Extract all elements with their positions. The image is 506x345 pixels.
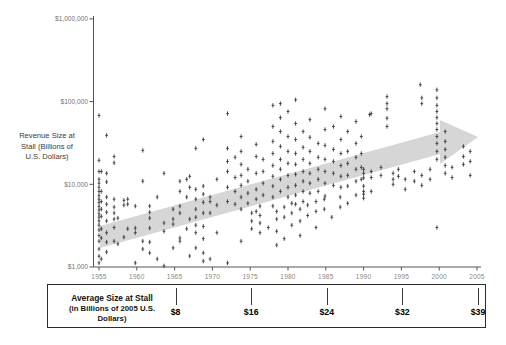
data-point <box>179 189 182 193</box>
data-point <box>362 196 365 200</box>
data-point <box>309 161 312 165</box>
data-point <box>397 167 400 171</box>
data-point <box>272 151 275 155</box>
data-point <box>259 221 262 225</box>
data-point <box>134 261 137 265</box>
data-point <box>226 169 229 173</box>
data-point <box>287 109 290 113</box>
data-point <box>105 210 108 214</box>
data-point <box>302 145 305 149</box>
data-point <box>105 219 108 223</box>
data-point <box>306 213 309 217</box>
data-point <box>240 173 243 177</box>
data-point <box>404 187 407 191</box>
data-point <box>275 209 278 213</box>
data-point <box>163 171 166 175</box>
data-point <box>290 201 293 205</box>
data-point <box>420 101 423 105</box>
data-point <box>179 239 182 243</box>
data-point <box>419 83 422 87</box>
data-point <box>194 187 197 191</box>
data-point <box>188 254 191 258</box>
data-point <box>234 175 237 179</box>
data-point <box>279 157 282 161</box>
data-point <box>148 240 151 244</box>
data-point <box>370 189 373 193</box>
data-point <box>202 259 205 263</box>
data-point <box>317 155 320 159</box>
data-point <box>185 227 188 231</box>
data-point <box>340 137 343 141</box>
data-point <box>185 177 188 181</box>
data-point <box>279 129 282 133</box>
data-point <box>315 209 318 213</box>
data-point <box>386 107 389 111</box>
data-point <box>370 111 373 115</box>
data-point <box>370 175 373 179</box>
data-point <box>275 217 278 221</box>
data-point <box>247 179 250 183</box>
data-point <box>216 231 219 235</box>
data-point <box>267 225 270 229</box>
average-size-box: Average Size at Stall (in Billions of 20… <box>47 284 486 328</box>
x-tick-label: 1995 <box>394 273 410 280</box>
average-size-value: $39 <box>462 307 494 317</box>
data-point <box>302 157 305 161</box>
data-point <box>392 177 395 181</box>
data-point <box>272 174 275 178</box>
data-point <box>202 137 205 141</box>
data-point <box>105 250 108 254</box>
data-point <box>226 111 229 115</box>
data-point <box>339 195 342 199</box>
x-tick-label: 1970 <box>205 273 221 280</box>
data-point <box>462 162 465 166</box>
data-point <box>294 162 297 166</box>
data-point <box>202 184 205 188</box>
data-point <box>194 246 197 250</box>
y-tick-label: $1,000,000 <box>55 15 88 22</box>
data-point <box>141 247 144 251</box>
data-point <box>436 96 439 100</box>
data-point <box>105 171 108 175</box>
data-point <box>332 183 335 187</box>
data-point <box>279 167 282 171</box>
data-point <box>141 148 144 152</box>
data-point <box>290 223 293 227</box>
data-point <box>179 179 182 183</box>
data-point <box>340 185 343 189</box>
average-size-tick-mark <box>251 288 252 305</box>
data-point <box>275 229 278 233</box>
data-point <box>451 175 454 179</box>
data-point <box>113 217 116 221</box>
data-point <box>413 169 416 173</box>
data-point <box>299 207 302 211</box>
data-point <box>283 205 286 209</box>
data-point <box>194 231 197 235</box>
data-point <box>148 204 151 208</box>
average-size-tick-mark <box>176 288 177 305</box>
data-point <box>240 134 243 138</box>
data-point <box>436 121 439 125</box>
data-point <box>105 195 108 199</box>
data-point <box>287 149 290 153</box>
data-point <box>202 251 205 255</box>
data-point <box>429 177 432 181</box>
data-point <box>451 165 454 169</box>
data-point <box>323 207 326 211</box>
data-point <box>194 146 197 150</box>
data-point <box>255 142 258 146</box>
data-point <box>299 219 302 223</box>
data-point <box>255 209 258 213</box>
average-size-value: $24 <box>311 307 343 317</box>
x-tick-label: 1955 <box>91 273 107 280</box>
data-point <box>98 219 101 223</box>
data-point <box>444 171 447 175</box>
data-point <box>141 179 144 183</box>
data-point <box>113 161 116 165</box>
data-point <box>306 203 309 207</box>
data-point <box>226 159 229 163</box>
data-point <box>362 184 365 188</box>
data-point <box>172 246 175 250</box>
data-point <box>309 135 312 139</box>
data-point <box>259 213 262 217</box>
